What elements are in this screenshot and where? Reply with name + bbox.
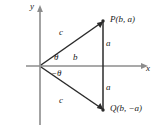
angle-label-negative-theta: −θ [51, 69, 62, 78]
segment-label-c-lower: c [59, 96, 63, 105]
point-q-dot [101, 108, 104, 111]
segment-label-a-lower: a [106, 83, 111, 92]
y-axis-label: y [30, 2, 34, 11]
point-label-q: Q(b, −a) [110, 104, 142, 113]
hypotenuse-lower-line [41, 67, 100, 107]
point-p-dot [101, 19, 104, 22]
segment-label-c-upper: c [59, 28, 63, 37]
hypotenuse-upper-line [41, 24, 100, 65]
angle-label-theta: θ [54, 53, 58, 62]
x-axis [26, 63, 148, 69]
geometry-figure: y x c c a a b θ −θ P(b, a) Q(b, −a) [0, 0, 160, 125]
segment-label-a-upper: a [106, 39, 111, 48]
y-axis-arrowhead [37, 5, 43, 12]
segment-label-b: b [73, 53, 78, 62]
point-label-p: P(b, a) [110, 15, 135, 24]
x-axis-label: x [146, 64, 150, 73]
